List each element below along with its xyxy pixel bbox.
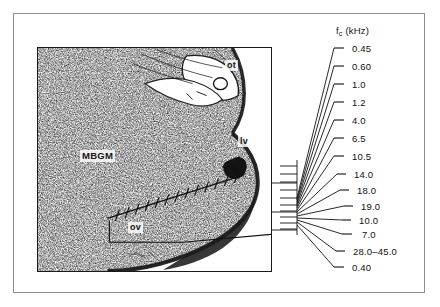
frequency-label-9: 18.0 <box>357 186 376 196</box>
frequency-label-1: 0.45 <box>352 44 371 54</box>
frequency-label-3: 1.0 <box>352 80 366 90</box>
leader-lines-svg <box>272 20 427 285</box>
legend-title-subscript: c <box>339 30 343 37</box>
figure-root: MBGM ot lv ov <box>0 0 440 307</box>
legend-title: fc (kHz) <box>336 25 369 36</box>
frequency-label-8: 14.0 <box>354 170 373 180</box>
micrograph-image <box>38 48 271 271</box>
frequency-label-12: 7.0 <box>362 230 376 240</box>
frequency-label-13: 28.0–45.0 <box>353 247 397 257</box>
structure-label-ot: ot <box>225 60 238 71</box>
frequency-label-10: 19.0 <box>361 202 380 212</box>
micrograph-panel <box>37 47 272 272</box>
frequency-label-11: 10.0 <box>359 216 378 226</box>
legend-title-units: (kHz) <box>345 25 369 36</box>
frequency-label-6: 6.5 <box>352 134 366 144</box>
frequency-label-5: 4.0 <box>352 116 366 126</box>
leader-lines-group <box>272 20 427 285</box>
frequency-label-4: 1.2 <box>352 98 366 108</box>
structure-label-mbgm: MBGM <box>80 150 115 162</box>
frequency-label-7: 10.5 <box>352 152 371 162</box>
frequency-label-2: 0.60 <box>352 62 371 72</box>
structure-label-ov: ov <box>128 222 143 233</box>
structure-label-lv: lv <box>238 136 250 147</box>
frequency-label-14: 0.40 <box>352 263 371 273</box>
